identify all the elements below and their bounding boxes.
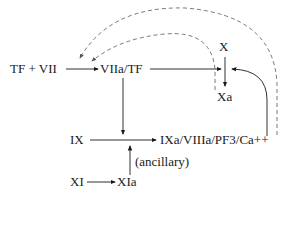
- node-ix: IX: [70, 133, 84, 147]
- node-xia: XIa: [117, 175, 137, 189]
- node-tf-vii: TF + VII: [10, 62, 57, 76]
- arrow-ixa-to-x: [232, 69, 267, 136]
- node-ixa-complex: IXa/VIIIa/PF3/Ca++: [160, 133, 269, 147]
- node-x: X: [219, 40, 228, 54]
- label-ancillary: (ancillary): [135, 155, 189, 169]
- node-xa: Xa: [217, 90, 232, 104]
- node-viia-tf: VIIa/TF: [100, 62, 143, 76]
- node-xi: XI: [70, 175, 84, 189]
